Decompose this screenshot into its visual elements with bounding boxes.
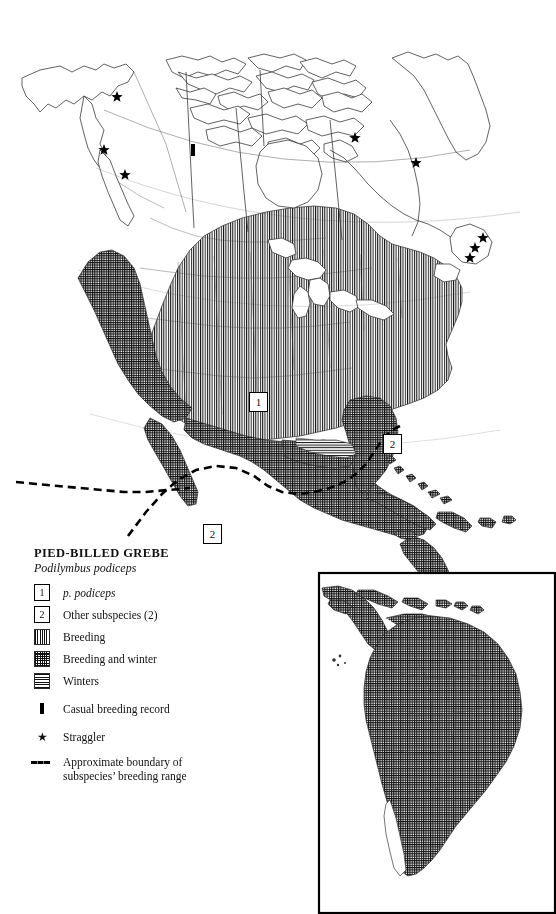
legend-numbox-2: 2 — [34, 606, 50, 623]
map-callout-central-united-states: 1 — [249, 392, 268, 412]
bar-marker-icon — [34, 703, 50, 714]
legend-pattern-winters: Winters — [34, 672, 284, 689]
map-callout-bahamas-atlantic: 2 — [383, 434, 402, 454]
legend-pattern-winters-label: Winters — [63, 675, 99, 687]
legend-mark-boundary-label: Approximate boundary of subspecies’ bree… — [63, 756, 187, 783]
legend: PIED-BILLED GREBE Podilymbus podiceps 1 … — [34, 546, 284, 783]
star-marker-icon: ★ — [34, 731, 50, 743]
legend-mark-straggler: ★ Straggler — [34, 728, 284, 745]
legend-mark-boundary-line1: Approximate boundary of — [63, 756, 187, 770]
star-glyph: ★ — [37, 731, 48, 743]
range-map: 122 PIED-BILLED GREBE Podilymbus podicep… — [0, 0, 556, 914]
legend-mark-boundary: Approximate boundary of subspecies’ bree… — [34, 756, 284, 783]
legend-pattern-breeding-winter-label: Breeding and winter — [63, 653, 157, 665]
map-callout-southern-mexico: 2 — [203, 524, 222, 544]
legend-numbox-1: 1 — [34, 584, 50, 601]
legend-mark-boundary-line2: subspecies’ breeding range — [63, 770, 187, 784]
legend-subspecies-1: 1 p. podiceps — [34, 584, 284, 601]
legend-subspecies-2: 2 Other subspecies (2) — [34, 606, 284, 623]
range-breeding-area — [146, 206, 462, 440]
legend-mark-straggler-label: Straggler — [63, 731, 105, 743]
legend-subspecies-2-label: Other subspecies (2) — [63, 609, 158, 621]
legend-subspecies-1-label: p. podiceps — [63, 587, 115, 599]
casual-breeding-bar-icon — [191, 144, 195, 156]
legend-scientific-name: Podilymbus podiceps — [34, 561, 284, 576]
swatch-vertical-lines-icon — [34, 629, 50, 645]
legend-pattern-breeding-label: Breeding — [63, 631, 105, 643]
swatch-horizontal-lines-icon — [34, 673, 50, 689]
dashed-line-marker-icon — [34, 756, 50, 764]
swatch-cross-hatch-icon — [34, 651, 50, 667]
legend-mark-casual-breeding-label: Casual breeding record — [63, 703, 170, 715]
legend-title: PIED-BILLED GREBE — [34, 546, 284, 561]
straggler-star-icon — [410, 157, 421, 168]
legend-mark-casual-breeding: Casual breeding record — [34, 700, 284, 717]
legend-pattern-breeding: Breeding — [34, 628, 284, 645]
casual-breeding-markers — [191, 144, 195, 156]
legend-pattern-breeding-winter: Breeding and winter — [34, 650, 284, 667]
